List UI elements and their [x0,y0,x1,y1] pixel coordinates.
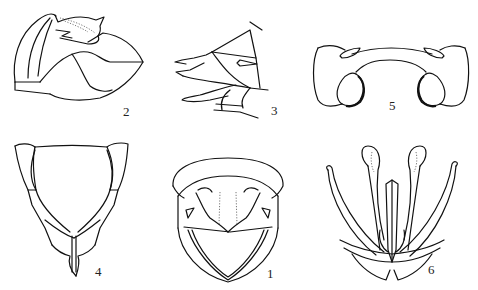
line-drawings [0,0,478,290]
figure-6-drawing [327,146,458,280]
figure-1-drawing [173,158,283,282]
figure-4-drawing [15,143,128,276]
figure-label-4: 4 [95,264,102,280]
figure-label-5: 5 [389,98,396,114]
figure-label-3: 3 [271,103,278,119]
figure-2-drawing [14,14,143,100]
illustration-plate: 2 3 5 4 1 6 [0,0,478,290]
figure-3-drawing [175,22,268,118]
figure-label-1: 1 [267,266,274,282]
figure-label-2: 2 [123,104,130,120]
figure-label-6: 6 [428,262,435,278]
